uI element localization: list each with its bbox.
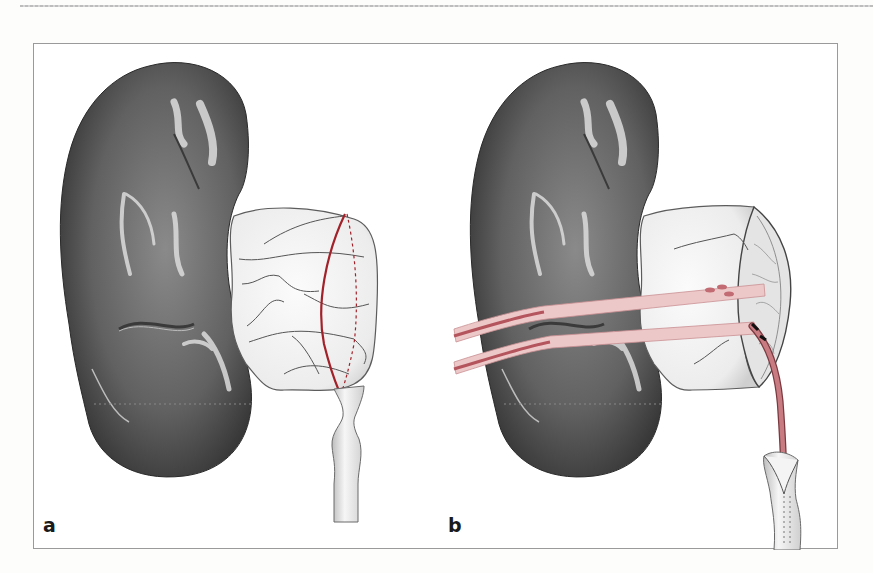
panel-label-b: b <box>448 514 462 536</box>
panel-b: b <box>434 44 839 548</box>
kidney-shape <box>470 63 661 477</box>
ureter <box>332 386 364 522</box>
kidney-illustration-a <box>34 44 434 550</box>
panel-a: a <box>34 44 434 548</box>
panel-label-a: a <box>43 514 56 536</box>
renal-pelvis <box>230 208 377 390</box>
top-rule <box>20 5 873 7</box>
figure-frame: a <box>33 43 838 549</box>
kidney-illustration-b <box>434 44 839 550</box>
kidney-shape <box>60 63 251 477</box>
